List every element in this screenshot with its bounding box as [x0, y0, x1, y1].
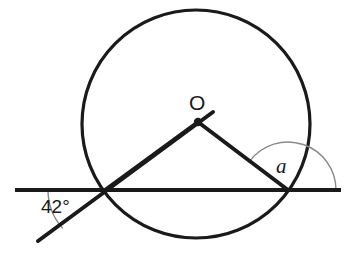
geometry-diagram: O 42° a: [0, 0, 346, 256]
radius-left-segment: [105, 122, 198, 190]
circle-center-label: O: [189, 92, 205, 113]
geometry-canvas: [0, 0, 346, 256]
center-point-dot: [194, 118, 202, 126]
radius-right-segment: [198, 122, 288, 190]
angle-variable-label-alpha: a: [276, 156, 287, 177]
angle-measure-label-42: 42°: [41, 197, 70, 216]
